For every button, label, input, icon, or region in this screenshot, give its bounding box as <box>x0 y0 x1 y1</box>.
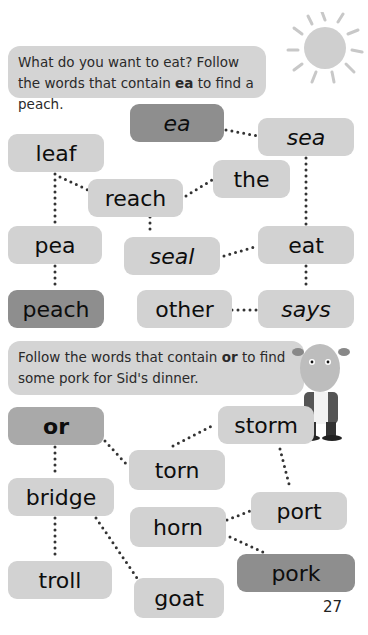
word-label: reach <box>105 186 167 211</box>
word-box-peach-goal: peach <box>8 290 104 328</box>
word-label: port <box>276 499 321 524</box>
instruction-keyword: or <box>222 349 238 365</box>
word-box-says: says <box>258 290 354 328</box>
word-box-reach: reach <box>88 179 183 217</box>
word-label: troll <box>39 568 82 593</box>
word-box-other: other <box>137 290 232 328</box>
word-label: storm <box>234 413 298 438</box>
word-box-horn: horn <box>130 507 226 547</box>
word-box-leaf: leaf <box>8 134 104 172</box>
word-label: eat <box>288 233 324 258</box>
word-label: or <box>43 414 69 439</box>
word-label: seal <box>150 244 195 269</box>
instruction-ea: What do you want to eat? Follow the word… <box>8 46 266 98</box>
word-box-eat: eat <box>258 226 354 264</box>
instruction-text: Follow the words that contain <box>18 349 222 365</box>
word-box-pea: pea <box>8 226 102 264</box>
word-box-seal: seal <box>124 237 220 275</box>
word-box-pork-goal: pork <box>237 554 355 592</box>
word-label: bridge <box>26 485 97 510</box>
word-label: sea <box>287 125 325 150</box>
word-box-troll: troll <box>8 561 112 599</box>
word-label: ea <box>163 111 190 136</box>
word-label: leaf <box>36 141 77 166</box>
word-label: pea <box>35 233 76 258</box>
sun-icon <box>286 12 364 84</box>
word-label: torn <box>155 458 200 483</box>
word-box-or-start: or <box>8 407 104 445</box>
word-label: other <box>155 297 214 322</box>
word-label: peach <box>22 297 89 322</box>
word-box-goat: goat <box>134 578 224 618</box>
word-box-ea-start: ea <box>130 104 224 142</box>
word-label: pork <box>271 561 320 586</box>
word-box-port: port <box>251 492 347 530</box>
word-label: horn <box>153 515 203 540</box>
word-box-the: the <box>213 160 290 198</box>
word-box-storm: storm <box>218 406 314 444</box>
page-number: 27 <box>323 598 342 616</box>
word-label: goat <box>154 586 204 611</box>
word-label: says <box>281 297 330 322</box>
word-label: the <box>233 167 269 192</box>
word-box-sea: sea <box>258 118 354 156</box>
word-box-bridge: bridge <box>8 478 114 516</box>
instruction-keyword: ea <box>175 75 193 91</box>
word-box-torn: torn <box>129 450 225 490</box>
instruction-or: Follow the words that contain or to find… <box>8 341 304 395</box>
